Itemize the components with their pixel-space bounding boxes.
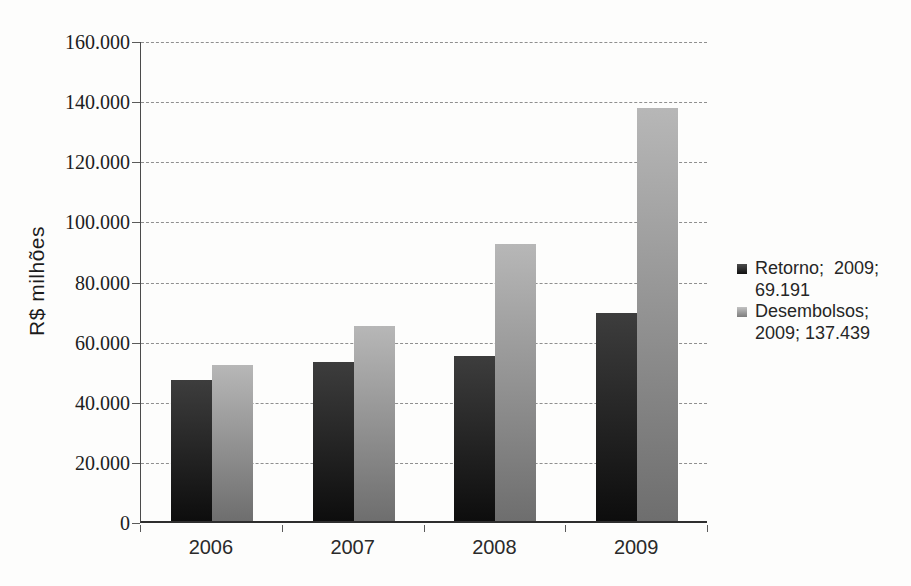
legend-item-desembolsos: Desembolsos; 2009; 137.439 (737, 301, 909, 344)
y-tick-label-140.000: 140.000 (38, 92, 130, 112)
legend-label-retorno: Retorno; 2009; 69.191 (755, 258, 879, 301)
x-axis-tick (140, 525, 141, 532)
y-axis-tick (132, 42, 140, 43)
bar-retorno-2006 (171, 380, 212, 521)
legend: Retorno; 2009; 69.191Desembolsos; 2009; … (737, 258, 909, 344)
x-tick-label-2007: 2007 (330, 536, 375, 559)
bar-desembolsos-2008 (495, 244, 536, 521)
y-tick-label-100.000: 100.000 (38, 212, 130, 232)
legend-label-desembolsos: Desembolsos; 2009; 137.439 (755, 301, 870, 344)
x-axis-tick (424, 525, 425, 532)
y-axis-tick (132, 162, 140, 163)
gridline-140.000 (141, 102, 707, 103)
x-tick-label-2009: 2009 (614, 536, 659, 559)
bar-desembolsos-2007 (354, 326, 395, 521)
bar-retorno-2007 (313, 362, 354, 521)
legend-marker-retorno-icon (737, 264, 747, 274)
bar-chart-figure: R$ milhões 020.00040.00060.00080.000100.… (0, 0, 911, 586)
y-axis-tick (132, 283, 140, 284)
bar-retorno-2009 (596, 313, 637, 521)
y-axis-tick (132, 523, 140, 524)
x-axis-tick (565, 525, 566, 532)
y-tick-label-160.000: 160.000 (38, 32, 130, 52)
gridline-160.000 (141, 42, 707, 43)
gridline-100.000 (141, 222, 707, 223)
legend-item-retorno: Retorno; 2009; 69.191 (737, 258, 909, 301)
x-tick-label-2006: 2006 (189, 536, 234, 559)
plot-area (140, 42, 707, 523)
y-axis-tick (132, 102, 140, 103)
bar-desembolsos-2006 (212, 365, 253, 521)
x-tick-label-2008: 2008 (472, 536, 517, 559)
x-axis-tick (282, 525, 283, 532)
y-tick-label-120.000: 120.000 (38, 152, 130, 172)
y-axis-tick (132, 343, 140, 344)
y-tick-label-40.000: 40.000 (38, 393, 130, 413)
y-tick-label-0: 0 (38, 513, 130, 533)
y-axis-tick (132, 403, 140, 404)
y-axis-tick (132, 463, 140, 464)
bar-retorno-2008 (454, 356, 495, 521)
y-tick-label-60.000: 60.000 (38, 333, 130, 353)
gridline-80.000 (141, 283, 707, 284)
legend-marker-desembolsos-icon (737, 307, 747, 317)
bar-desembolsos-2009 (637, 108, 678, 521)
y-tick-label-20.000: 20.000 (38, 453, 130, 473)
x-axis-tick (707, 525, 708, 532)
gridline-120.000 (141, 162, 707, 163)
y-tick-label-80.000: 80.000 (38, 273, 130, 293)
y-axis-tick (132, 222, 140, 223)
